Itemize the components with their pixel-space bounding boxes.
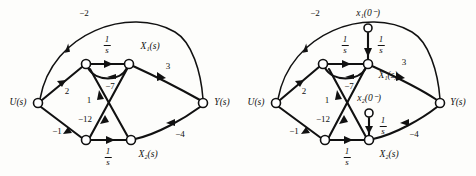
node-label-x2: X₂(s) <box>138 150 157 160</box>
edge-label-u-to-x1dot-gain-2: 2 <box>302 87 307 96</box>
edge-label-x2-to-y-gain-minus4: −4 <box>409 130 419 139</box>
arrowhead-x2dot-to-x2 <box>344 136 353 144</box>
arrowhead-x1dot-to-x1 <box>104 60 113 68</box>
edge-label-u-to-x1dot-gain-2: 2 <box>65 87 70 96</box>
fraction-numerator: 1 <box>344 147 351 156</box>
fraction-one-over-s: 1 s <box>342 35 349 55</box>
fraction-numerator: 1 <box>104 35 111 44</box>
node-x2-initial-condition[interactable] <box>365 109 373 117</box>
fraction-denominator: s <box>344 158 351 167</box>
node-x2dot[interactable] <box>82 136 91 145</box>
arrowhead-ic2-to-x2 <box>365 126 373 134</box>
edge-label-x1-to-x2dot-gain-minus12: −12 <box>316 115 330 124</box>
edge-label-x1dot-to-x1-integrator: 1 s <box>342 35 349 55</box>
node-x2dot[interactable] <box>321 136 330 145</box>
panel-right-edges <box>278 22 440 144</box>
node-x1[interactable] <box>125 60 134 69</box>
fraction-denominator: s <box>105 158 112 167</box>
node-x1-initial-condition[interactable] <box>364 24 372 32</box>
edge-label-x1-to-y-gain-3: 3 <box>166 62 171 71</box>
edge-label-x1-to-x2dot-gain-minus12: −12 <box>78 115 92 124</box>
graph-canvas <box>0 0 476 176</box>
node-x1[interactable] <box>364 60 373 69</box>
node-label-x1: X₁(s) <box>140 42 159 52</box>
fraction-numerator: 1 <box>105 147 112 156</box>
fraction-denominator: s <box>378 46 385 55</box>
node-label-x2-initial-condition: x₂(0⁻) <box>357 94 381 104</box>
node-label-x1-initial-condition: x₁(0⁻) <box>356 9 380 19</box>
node-label-y: Y(s) <box>214 98 229 108</box>
node-label-x1: X₁(s) <box>378 71 397 81</box>
fraction-numerator: 1 <box>342 35 349 44</box>
fraction-numerator: 1 <box>380 116 387 125</box>
fraction-one-over-s: 1 s <box>104 35 111 55</box>
node-x2[interactable] <box>365 136 374 145</box>
node-u[interactable] <box>272 99 281 108</box>
node-label-y: Y(s) <box>450 98 465 108</box>
fraction-denominator: s <box>380 127 387 136</box>
edge-label-u-to-y-gain-minus2: −2 <box>79 9 89 18</box>
node-y[interactable] <box>436 99 445 108</box>
arrowhead-ic1-to-x1 <box>364 48 372 57</box>
node-x2[interactable] <box>127 136 136 145</box>
edge-label-x2dot-to-x2-integrator: 1 s <box>105 147 112 167</box>
node-u[interactable] <box>34 99 43 108</box>
edge-label-x1-to-x1dot-gain-minus7: −7 <box>105 82 115 91</box>
node-y[interactable] <box>199 99 208 108</box>
edge-label-x1-to-y-gain-3: 3 <box>402 58 407 67</box>
node-label-u: U(s) <box>248 98 265 108</box>
edge-label-x2dot-to-x2-integrator: 1 s <box>344 147 351 167</box>
edge-u-to-x2dot-gain-minus1 <box>279 107 321 138</box>
fraction-one-over-s: 1 s <box>105 147 112 167</box>
fraction-denominator: s <box>104 46 111 55</box>
edge-x1-to-y-gain-3 <box>133 66 200 100</box>
edge-label-u-to-y-gain-minus2: −2 <box>310 9 320 18</box>
node-x1dot[interactable] <box>82 60 91 69</box>
edge-label-x1dot-to-x1-integrator: 1 s <box>104 35 111 55</box>
node-x1dot[interactable] <box>319 60 328 69</box>
fraction-one-over-s: 1 s <box>378 35 385 55</box>
panel-left-edges <box>40 22 203 144</box>
edge-label-u-to-x2dot-gain-minus1: −1 <box>289 127 299 136</box>
edge-label-x1-to-x1dot-gain-minus7: −7 <box>344 82 354 91</box>
node-label-x2: X₂(s) <box>379 150 398 160</box>
edge-label-ic2-to-x2-integrator: 1 s <box>380 116 387 136</box>
fraction-one-over-s: 1 s <box>344 147 351 167</box>
edge-label-x2-to-y-gain-minus4: −4 <box>175 130 185 139</box>
edge-label-u-to-x2dot-gain-minus1: −1 <box>52 127 62 136</box>
arrowhead-x2-to-y <box>400 119 409 126</box>
edge-label-ic1-to-x1-integrator: 1 s <box>378 35 385 55</box>
signal-flow-graph-figure: U(s) X₁(s) X₂(s) Y(s) −2 2 −1 −7 1 −12 3… <box>0 0 476 176</box>
arrowhead-x2dot-to-x2 <box>106 136 115 144</box>
edge-label-x2-to-x1dot-gain-1: 1 <box>87 96 92 105</box>
fraction-denominator: s <box>342 46 349 55</box>
edge-label-x2-to-x1dot-gain-1: 1 <box>325 96 330 105</box>
fraction-numerator: 1 <box>378 35 385 44</box>
arrowhead-x1dot-to-x1 <box>342 60 351 68</box>
node-label-u: U(s) <box>10 98 27 108</box>
fraction-one-over-s: 1 s <box>380 116 387 136</box>
